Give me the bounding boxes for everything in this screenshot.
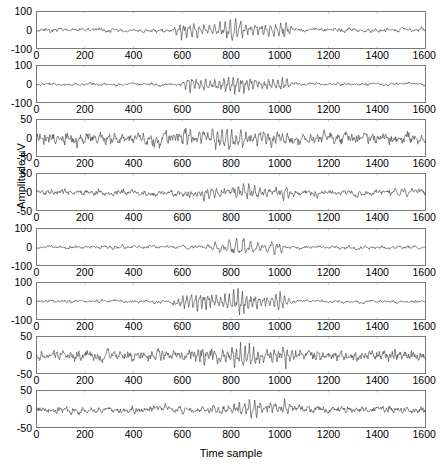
x-tick-label-600: 600 <box>173 429 191 440</box>
x-tick-label-400: 400 <box>125 104 143 115</box>
channel-panel-8: 500-5002004006008001000120014001600 <box>36 390 426 428</box>
x-tick-label-1200: 1200 <box>317 429 340 440</box>
x-tick-label-200: 200 <box>76 212 94 223</box>
x-tick-label-1200: 1200 <box>317 104 340 115</box>
x-tick-label-1400: 1400 <box>366 50 389 61</box>
y-tick-label-p5--100: -100 <box>11 261 32 271</box>
y-tick-label-p5-100: 100 <box>14 223 32 233</box>
y-tick-label-p6--100: -100 <box>11 315 32 325</box>
x-tick-labels-p2: 02004006008001000120014001600 <box>36 103 426 117</box>
x-tick-label-1600: 1600 <box>412 429 435 440</box>
x-tick-label-600: 600 <box>173 158 191 169</box>
x-tick-label-1400: 1400 <box>366 267 389 278</box>
y-tick-label-p1-0: 0 <box>26 25 32 35</box>
y-tick-label-p2-100: 100 <box>14 60 32 70</box>
x-tick-label-0: 0 <box>34 104 40 115</box>
y-tick-label-p1-100: 100 <box>14 6 32 16</box>
x-tick-label-800: 800 <box>222 375 240 386</box>
y-tick-label-p7-50: 50 <box>20 331 32 341</box>
channel-panel-4: 500-5002004006008001000120014001600 <box>36 173 426 211</box>
x-tick-labels-p1: 02004006008001000120014001600 <box>36 49 426 63</box>
x-tick-labels-p4: 02004006008001000120014001600 <box>36 211 426 225</box>
signal-trace-6 <box>36 282 426 320</box>
x-axis-label: Time sample <box>36 447 426 459</box>
y-tick-label-p4-0: 0 <box>26 187 32 197</box>
x-tick-label-1600: 1600 <box>412 321 435 332</box>
x-tick-label-0: 0 <box>34 212 40 223</box>
x-tick-label-1000: 1000 <box>268 267 291 278</box>
x-tick-label-0: 0 <box>34 321 40 332</box>
x-tick-label-1200: 1200 <box>317 267 340 278</box>
x-tick-label-1600: 1600 <box>412 267 435 278</box>
y-tick-label-p6-100: 100 <box>14 277 32 287</box>
x-tick-label-1200: 1200 <box>317 375 340 386</box>
x-tick-label-800: 800 <box>222 321 240 332</box>
x-tick-label-1000: 1000 <box>268 158 291 169</box>
x-tick-label-400: 400 <box>125 267 143 278</box>
x-tick-label-1600: 1600 <box>412 375 435 386</box>
y-tick-label-p7-0: 0 <box>26 350 32 360</box>
x-tick-labels-p8: 02004006008001000120014001600 <box>36 428 426 442</box>
x-tick-label-0: 0 <box>34 158 40 169</box>
x-tick-label-1600: 1600 <box>412 50 435 61</box>
signal-trace-7 <box>36 336 426 374</box>
x-tick-label-1200: 1200 <box>317 212 340 223</box>
x-tick-label-400: 400 <box>125 50 143 61</box>
x-tick-label-400: 400 <box>125 429 143 440</box>
channel-panel-2: 1000-10002004006008001000120014001600 <box>36 65 426 103</box>
x-tick-labels-p6: 02004006008001000120014001600 <box>36 320 426 334</box>
x-tick-label-600: 600 <box>173 267 191 278</box>
x-tick-label-600: 600 <box>173 50 191 61</box>
x-tick-label-1000: 1000 <box>268 375 291 386</box>
x-tick-label-1400: 1400 <box>366 158 389 169</box>
x-tick-label-600: 600 <box>173 375 191 386</box>
signal-trace-5 <box>36 228 426 266</box>
x-tick-label-200: 200 <box>76 267 94 278</box>
x-tick-label-1400: 1400 <box>366 375 389 386</box>
x-tick-label-1600: 1600 <box>412 212 435 223</box>
x-tick-label-400: 400 <box>125 158 143 169</box>
channel-panel-3: 500-5002004006008001000120014001600 <box>36 119 426 157</box>
y-tick-label-p8-0: 0 <box>26 404 32 414</box>
y-tick-label-p2--100: -100 <box>11 98 32 108</box>
x-tick-label-1200: 1200 <box>317 321 340 332</box>
y-tick-label-p1--100: -100 <box>11 44 32 54</box>
x-tick-label-1000: 1000 <box>268 321 291 332</box>
x-tick-label-400: 400 <box>125 375 143 386</box>
y-tick-label-p5-0: 0 <box>26 242 32 252</box>
x-tick-label-800: 800 <box>222 212 240 223</box>
x-tick-label-200: 200 <box>76 104 94 115</box>
y-tick-label-p3-50: 50 <box>20 114 32 124</box>
x-tick-label-200: 200 <box>76 375 94 386</box>
channel-panel-1: 1000-10002004006008001000120014001600 <box>36 11 426 49</box>
y-tick-label-p3-0: 0 <box>26 133 32 143</box>
x-tick-label-1000: 1000 <box>268 50 291 61</box>
x-tick-label-800: 800 <box>222 158 240 169</box>
x-tick-label-1000: 1000 <box>268 212 291 223</box>
x-tick-label-1000: 1000 <box>268 104 291 115</box>
x-tick-label-400: 400 <box>125 212 143 223</box>
signal-trace-8 <box>36 390 426 428</box>
x-tick-label-0: 0 <box>34 429 40 440</box>
y-tick-label-p8-50: 50 <box>20 385 32 395</box>
channel-panel-7: 500-5002004006008001000120014001600 <box>36 336 426 374</box>
x-tick-label-800: 800 <box>222 429 240 440</box>
x-tick-labels-p5: 02004006008001000120014001600 <box>36 266 426 280</box>
x-tick-label-400: 400 <box>125 321 143 332</box>
x-tick-label-600: 600 <box>173 212 191 223</box>
x-tick-label-600: 600 <box>173 104 191 115</box>
x-tick-label-0: 0 <box>34 267 40 278</box>
signal-trace-1 <box>36 11 426 49</box>
y-tick-label-p7--50: -50 <box>17 369 32 379</box>
x-tick-label-1400: 1400 <box>366 321 389 332</box>
x-tick-label-1400: 1400 <box>366 429 389 440</box>
x-tick-label-1000: 1000 <box>268 429 291 440</box>
y-tick-label-p2-0: 0 <box>26 79 32 89</box>
x-tick-label-200: 200 <box>76 429 94 440</box>
signal-trace-2 <box>36 65 426 103</box>
x-tick-label-800: 800 <box>222 267 240 278</box>
signal-trace-4 <box>36 173 426 211</box>
x-tick-label-1200: 1200 <box>317 158 340 169</box>
x-tick-label-200: 200 <box>76 158 94 169</box>
x-tick-label-1600: 1600 <box>412 104 435 115</box>
